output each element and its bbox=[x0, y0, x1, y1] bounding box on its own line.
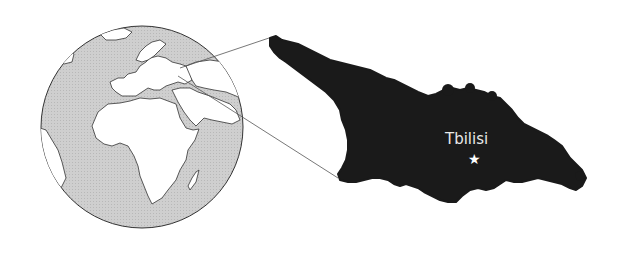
globe bbox=[40, 26, 244, 228]
georgia-silhouette bbox=[270, 36, 586, 202]
star-icon: ★ bbox=[468, 152, 481, 166]
map-figure bbox=[0, 0, 624, 255]
capital-label: Tbilisi bbox=[445, 130, 488, 148]
